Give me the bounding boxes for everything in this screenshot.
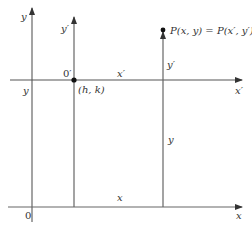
y-segment-label: y bbox=[167, 134, 174, 145]
x-axis-end-label: x bbox=[236, 210, 242, 221]
x-prime-segment-label: x′ bbox=[117, 68, 126, 79]
origin-prime-point bbox=[71, 77, 76, 82]
y-prime-segment-label: y′ bbox=[166, 59, 176, 70]
x-prime-axis-end-label: x′ bbox=[235, 85, 244, 96]
hk-label: (h, k) bbox=[78, 84, 105, 95]
point-p bbox=[161, 28, 166, 33]
origin-label: 0 bbox=[25, 210, 31, 221]
y-prime-axis-label: y′ bbox=[60, 23, 70, 34]
y-axis-label: y bbox=[20, 11, 27, 22]
point-p-label: P(x, y) = P(x′, y′) bbox=[169, 25, 252, 36]
origin-prime-label: 0′ bbox=[63, 68, 72, 79]
x-segment-label: x bbox=[117, 192, 123, 203]
y-left-segment-label: y bbox=[22, 85, 29, 96]
translation-of-axes-diagram: y y′ 0′ (h, k) x′ y x′ P(x, y) = P(x′, y… bbox=[0, 0, 252, 233]
